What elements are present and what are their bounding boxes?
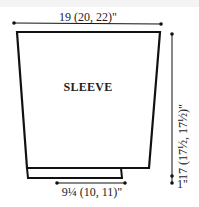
sleeve-schematic: [0, 0, 199, 207]
top-width-label: 19 (20, 22)": [0, 10, 176, 25]
cuff-length-label: 1": [177, 177, 188, 192]
sleeve-body-outline: [17, 32, 160, 168]
length-dimension-line: [170, 32, 174, 185]
sleeve-title: SLEEVE: [0, 80, 176, 95]
length-label: 17 (17½, 17½)": [176, 104, 191, 180]
bottom-width-label: 9¼ (10, 11)": [40, 185, 144, 200]
